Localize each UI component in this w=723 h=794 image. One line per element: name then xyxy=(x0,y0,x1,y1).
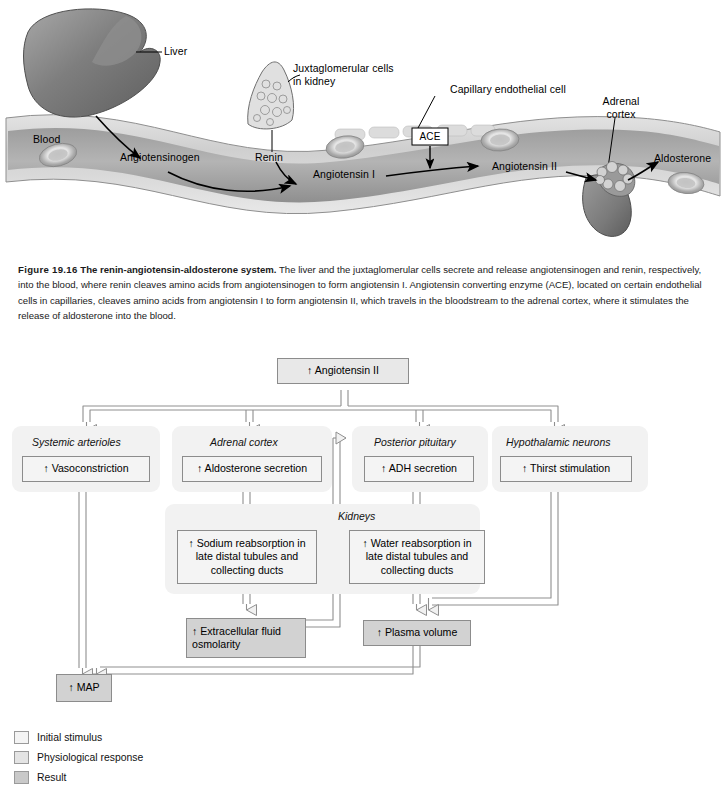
node-label: ↑ Vasoconstriction xyxy=(43,462,128,475)
legend-swatch-result xyxy=(14,771,29,784)
node-label: ↑ ADH secretion xyxy=(381,462,457,475)
figure-19-16: Liver Juxtaglomerular cells in kidney Ca… xyxy=(0,0,723,794)
label-juxtaglomerular-cells: Juxtaglomerular cells in kidney xyxy=(293,62,403,87)
legend-item-result: Result xyxy=(14,767,344,787)
node-plasma-volume[interactable]: ↑ Plasma volume xyxy=(363,620,471,646)
node-thirst-stimulation[interactable]: ↑ Thirst stimulation xyxy=(500,456,632,482)
node-adh-secretion[interactable]: ↑ ADH secretion xyxy=(364,456,474,482)
node-label: ↑ Extracellular fluid osmolarity xyxy=(192,625,300,651)
node-vasoconstriction[interactable]: ↑ Vasoconstriction xyxy=(22,456,150,482)
node-water-reabsorption[interactable]: ↑ Water reabsorption in late distal tubu… xyxy=(349,530,485,584)
label-angiotensin-i: Angiotensin I xyxy=(313,168,375,180)
vessel-diagram xyxy=(0,0,723,252)
node-sodium-reabsorption[interactable]: ↑ Sodium reabsorption in late distal tub… xyxy=(177,530,317,584)
node-map[interactable]: ↑ MAP xyxy=(56,674,112,702)
liver-organ xyxy=(24,9,161,117)
label-renin: Renin xyxy=(255,151,283,163)
flowchart: ↑ Angiotensin II Systemic arterioles Adr… xyxy=(0,352,723,752)
node-label: ↑ Sodium reabsorption in late distal tub… xyxy=(183,537,311,577)
group-label-kidneys: Kidneys xyxy=(338,510,375,522)
node-aldosterone-secretion[interactable]: ↑ Aldosterone secretion xyxy=(182,456,322,482)
label-ace: ACE xyxy=(414,131,446,142)
node-label: ↑ Plasma volume xyxy=(377,626,458,639)
node-label: ↑ MAP xyxy=(68,681,99,694)
figure-number: Figure 19.16 xyxy=(18,264,78,275)
node-label: ↑ Aldosterone secretion xyxy=(197,462,307,475)
juxtaglomerular-cells xyxy=(248,62,294,129)
legend-label: Initial stimulus xyxy=(37,732,102,743)
label-blood: Blood xyxy=(33,133,60,145)
figure-caption: Figure 19.16 The renin-angiotensin-aldos… xyxy=(18,262,708,324)
label-angiotensin-ii: Angiotensin II xyxy=(492,160,557,172)
group-label-adrenal-cortex: Adrenal cortex xyxy=(210,436,278,448)
legend-swatch-physiological-response xyxy=(14,751,29,764)
node-ecf-osmolarity[interactable]: ↑ Extracellular fluid osmolarity xyxy=(186,618,306,658)
label-aldosterone: Aldosterone xyxy=(654,152,711,164)
legend-item-physiological-response: Physiological response xyxy=(14,747,344,767)
legend-item-initial-stimulus: Initial stimulus xyxy=(14,727,344,747)
label-liver: Liver xyxy=(164,45,187,57)
group-label-systemic-arterioles: Systemic arterioles xyxy=(32,436,121,448)
legend: Initial stimulus Physiological response … xyxy=(14,727,344,787)
group-label-hypothalamic-neurons: Hypothalamic neurons xyxy=(506,436,610,448)
figure-title: The renin-angiotensin-aldosterone system… xyxy=(80,264,276,275)
node-label: ↑ Water reabsorption in late distal tubu… xyxy=(355,537,479,577)
label-angiotensinogen: Angiotensinogen xyxy=(120,151,200,163)
renin-angiotensin-illustration: Liver Juxtaglomerular cells in kidney Ca… xyxy=(0,0,723,252)
node-angiotensin-ii[interactable]: ↑ Angiotensin II xyxy=(277,358,409,384)
legend-label: Result xyxy=(37,772,66,783)
node-label: ↑ Angiotensin II xyxy=(307,364,379,377)
legend-swatch-initial-stimulus xyxy=(14,731,29,744)
label-capillary-endothelial-cell: Capillary endothelial cell xyxy=(450,83,566,95)
node-label: ↑ Thirst stimulation xyxy=(522,462,610,475)
label-adrenal-cortex: Adrenal cortex xyxy=(589,95,653,120)
group-label-posterior-pituitary: Posterior pituitary xyxy=(374,436,456,448)
legend-label: Physiological response xyxy=(37,752,143,763)
